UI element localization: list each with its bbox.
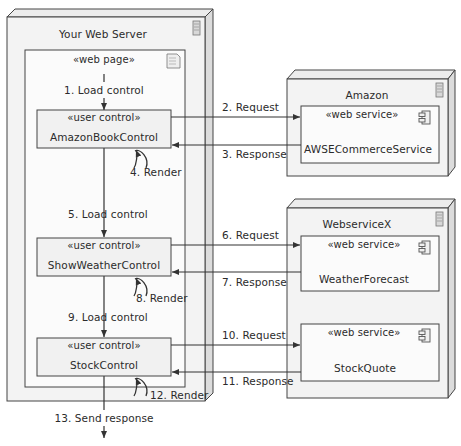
service-name: StockQuote — [334, 362, 396, 374]
message-label: 2. Request — [222, 101, 279, 113]
message-label: 7. Response — [222, 276, 287, 288]
service-stereotype: «web service» — [327, 239, 400, 250]
message-label: 8. Render — [136, 292, 188, 304]
node-title-webservicex: WebserviceX — [323, 218, 392, 230]
service-stereotype: «web service» — [325, 109, 398, 120]
message-label: 4. Render — [130, 166, 182, 178]
control-name: AmazonBookControl — [50, 131, 158, 143]
message-label: 3. Response — [222, 148, 287, 160]
control-name: StockControl — [70, 359, 138, 371]
message-label: 11. Response — [222, 375, 294, 387]
message-label: 5. Load control — [68, 208, 148, 220]
node-title-amazon: Amazon — [345, 89, 388, 101]
server-icon — [436, 212, 443, 226]
server-icon — [436, 83, 443, 97]
message-label: 13. Send response — [54, 412, 153, 424]
web-page-stereotype: «web page» — [73, 54, 135, 65]
message-label: 12. Render — [150, 389, 208, 401]
control-name: ShowWeatherControl — [48, 259, 160, 271]
message-label: 9. Load control — [68, 311, 148, 323]
service-name: AWSECommerceService — [304, 143, 432, 155]
server-icon — [193, 21, 200, 35]
service-stereotype: «web service» — [327, 327, 400, 338]
message-label: 1. Load control — [64, 84, 144, 96]
message-label: 10. Request — [222, 329, 286, 341]
message-label: 6. Request — [222, 229, 279, 241]
control-stereotype: «user control» — [67, 340, 140, 351]
control-stereotype: «user control» — [67, 112, 140, 123]
service-name: WeatherForecast — [319, 273, 409, 285]
control-stereotype: «user control» — [67, 240, 140, 251]
document-icon — [167, 54, 180, 68]
node-title-server: Your Web Server — [59, 28, 147, 40]
